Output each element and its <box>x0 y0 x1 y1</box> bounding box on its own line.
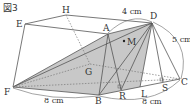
dim-dc: 5 cm <box>172 35 190 44</box>
label-r: R <box>119 91 126 101</box>
label-b: B <box>95 96 102 106</box>
label-e: E <box>16 19 23 29</box>
label-h: H <box>62 5 70 15</box>
prism-diagram: 図3 E H D A M G F B R L S C 4 cm 5 cm 8 c… <box>0 0 190 106</box>
label-c: C <box>181 77 188 87</box>
dim-bc: 8 cm <box>142 97 162 106</box>
label-g: G <box>85 67 92 77</box>
point-m-dot <box>123 40 125 42</box>
label-f: F <box>4 87 10 97</box>
label-s: S <box>162 83 168 93</box>
label-d: D <box>150 11 157 21</box>
dim-ad: 4 cm <box>122 7 142 16</box>
shaded-section <box>13 23 152 95</box>
label-a: A <box>102 23 110 33</box>
figure-title: 図3 <box>3 3 18 13</box>
label-m: M <box>127 37 136 47</box>
dim-fb: 8 cm <box>44 96 64 105</box>
